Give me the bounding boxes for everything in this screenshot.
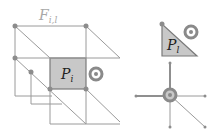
face-set-label: Fi,l [38,7,57,25]
vertex [84,24,89,29]
vertex [204,95,207,98]
edge [15,26,50,58]
vertex [29,70,34,75]
mesh-diagram: Fi,l Pi [0,0,216,136]
vertex [204,126,207,129]
vertex [169,62,172,65]
vertex [13,56,18,61]
edge [86,89,120,122]
vertex [169,126,172,129]
vertex-star [135,62,207,129]
vertex [160,22,165,27]
counterclockwise-circle-icon [90,68,102,80]
edge [86,26,120,58]
counterclockwise-circle-icon [164,89,176,101]
vertex [84,87,89,92]
vertex [13,24,18,29]
vertex [135,95,138,98]
triangle-face: Pl [160,22,198,57]
vertex [48,87,53,92]
left-mesh: Fi,l Pi [13,7,121,124]
counterclockwise-circle-icon [185,26,197,38]
